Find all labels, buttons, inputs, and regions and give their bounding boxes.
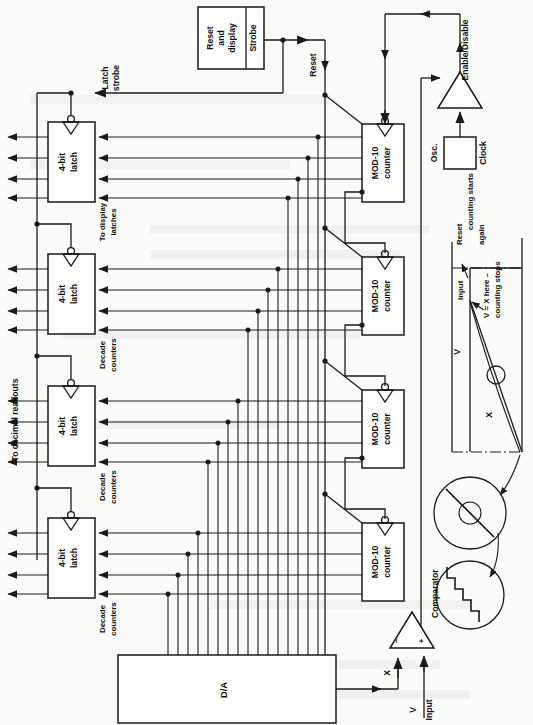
reset-display-label-line2: and [216,30,226,45]
x-signal-label: X [382,670,392,676]
decade-counters-label-1-line1: Decade [98,340,107,369]
da-label: D/A [218,682,229,698]
junction-dot [68,90,73,95]
decade-counters-label-3-line1: Decade [98,604,107,633]
junction-dot [34,221,39,226]
four-bit-latch-3[interactable]: 4-bit latch [48,380,95,466]
clock-label: Clock [478,141,488,165]
strobe-label: Strobe [248,24,258,51]
reset-label: Reset [308,53,318,77]
waveform-reset-note-line2: counting starts [466,172,475,230]
four-bit-latch-4[interactable]: 4-bit latch [48,512,95,598]
waveform-x-label: X [484,412,494,418]
enable-disable-label: Enable/Disable [460,19,470,80]
waveform-v-axis-label: V [452,349,462,355]
junction-dot [280,37,285,42]
four-bit-latch-2[interactable]: 4-bit latch [48,248,95,334]
junction-dot [322,225,327,230]
counter-1-label-line2: counter [382,147,392,179]
reset-and-display-block[interactable]: Reset and display Strobe [198,7,264,69]
junction-dot [359,322,364,327]
to-display-latches-label-line2: latches [109,208,118,236]
four-bit-latch-1[interactable]: 4-bit latch [48,116,95,202]
junction-dot [322,92,327,97]
waveform-stop-note-line1: V = X here – [482,272,491,318]
latch-2-label-line1: 4-bit [57,285,67,303]
to-decimal-readouts-label: To decimal readouts [10,378,20,461]
decade-counters-label-3-line2: counters [109,602,118,636]
waveform-reset-note-line3: again [477,224,486,245]
mod10-counter-2[interactable]: MOD-10 counter [362,251,404,335]
comparator-minus-input-label: − [392,638,401,643]
counter-4-label-line1: MOD-10 [370,546,380,579]
counter-1-label-line1: MOD-10 [370,147,380,180]
counter-4-label-line2: counter [382,546,392,578]
waveform-input-label: Input [456,280,465,300]
v-signal-label: V [408,707,418,713]
latch-3-label-line1: 4-bit [57,417,67,435]
junction-dot [322,491,327,496]
da-converter-block[interactable]: D/A [118,655,336,723]
counter-2-label-line1: MOD-10 [370,280,380,313]
junction-dot [322,358,327,363]
latch-3-label-line2: latch [69,416,79,436]
mod10-counter-4[interactable]: MOD-10 counter [362,517,404,601]
junction-dot [34,353,39,358]
comparator-label: Comparator [430,569,440,618]
junction-dot [359,455,364,460]
decade-counters-label-2-line1: Decade [98,472,107,501]
latch-strobe-label-line1: Latch [100,67,110,90]
counter-2-label-line2: counter [382,280,392,312]
diagram-canvas: Reset and display Strobe Latch strobe Re… [0,0,533,725]
counter-3-label-line2: counter [382,413,392,445]
latch-4-label-line2: latch [69,548,79,568]
comparator-plus-input-label: + [417,638,426,643]
latch-2-label-line2: latch [69,284,79,304]
junction-dot [359,189,364,194]
mod10-counter-1[interactable]: MOD-10 counter [362,118,404,202]
decade-counters-label-2-line2: counters [109,470,118,504]
latch-1-label-line2: latch [69,152,79,172]
input-signal-label: Input [424,699,434,720]
waveform-stop-note-line2: counting stops [493,261,502,318]
decade-counters-label-1-line2: counters [109,338,118,372]
junction-dot [34,485,39,490]
waveform-reset-note-line1: Reset [455,223,464,245]
latch-1-label-line1: 4-bit [57,153,67,171]
latch-strobe-label-line2: strobe [111,65,121,91]
reset-display-label-line1: Reset [205,26,215,50]
reset-display-label-line3: display [227,23,237,53]
latch-4-label-line1: 4-bit [57,549,67,567]
counter-3-label-line1: MOD-10 [370,413,380,446]
mod10-counter-3[interactable]: MOD-10 counter [362,384,404,468]
to-display-latches-label-line1: To display [98,202,107,241]
osc-label: Osc. [429,144,439,163]
